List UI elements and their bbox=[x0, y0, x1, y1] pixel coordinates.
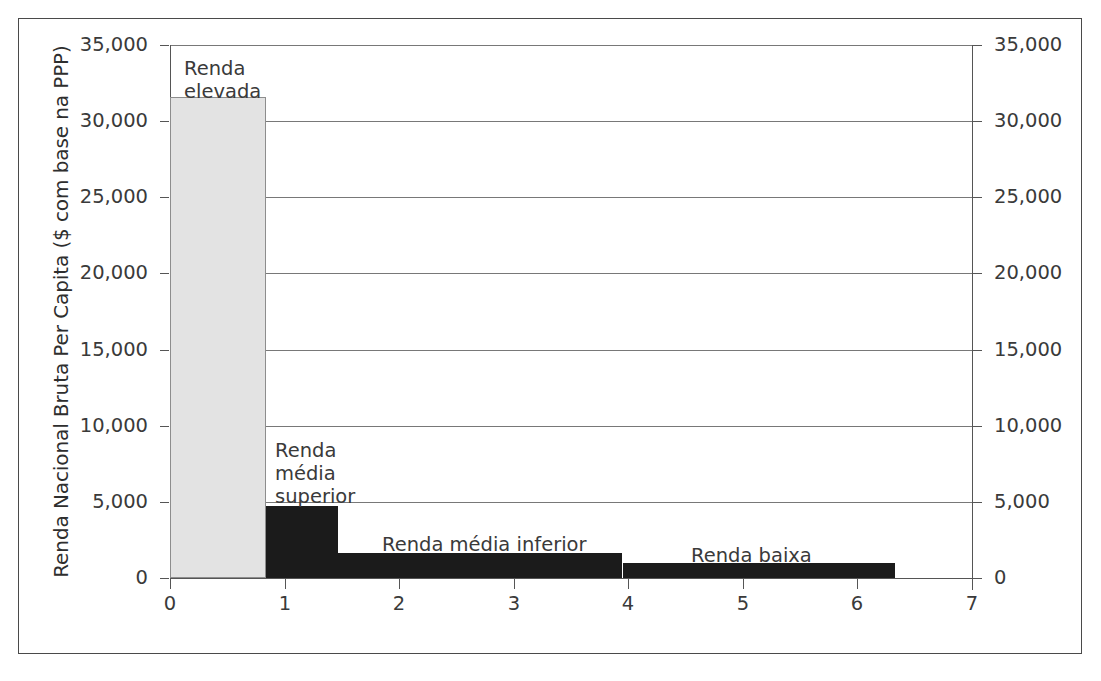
y-tick-label-right-35000: 35,000 bbox=[994, 35, 1062, 55]
bar-2 bbox=[338, 553, 622, 578]
x-axis-line bbox=[170, 578, 972, 579]
y-tick-label-right-0: 0 bbox=[994, 568, 1006, 588]
y-tick-right-20000 bbox=[973, 273, 982, 274]
y-tick-left-10000 bbox=[160, 426, 169, 427]
x-tick-label-3: 3 bbox=[494, 594, 534, 614]
x-tick-label-6: 6 bbox=[837, 594, 877, 614]
x-tick-2 bbox=[399, 578, 400, 589]
y-tick-label-right-25000: 25,000 bbox=[994, 187, 1062, 207]
y-tick-left-35000 bbox=[160, 45, 169, 46]
y-tick-left-25000 bbox=[160, 197, 169, 198]
x-tick-label-4: 4 bbox=[608, 594, 648, 614]
y-tick-label-left-10000: 10,000 bbox=[80, 416, 148, 436]
gridline-y-25000 bbox=[170, 197, 972, 198]
y-tick-right-15000 bbox=[973, 350, 982, 351]
bar-annotation-0: Renda elevada bbox=[184, 57, 261, 103]
gridline-y-15000 bbox=[170, 350, 972, 351]
y-tick-label-right-10000: 10,000 bbox=[994, 416, 1062, 436]
x-tick-5 bbox=[743, 578, 744, 589]
y-tick-label-left-30000: 30,000 bbox=[80, 111, 148, 131]
y-tick-right-0 bbox=[973, 578, 982, 579]
plot-area: 005,0005,00010,00010,00015,00015,00020,0… bbox=[170, 45, 972, 578]
gridline-y-20000 bbox=[170, 273, 972, 274]
bar-0 bbox=[170, 97, 266, 578]
y-tick-left-20000 bbox=[160, 273, 169, 274]
x-tick-label-0: 0 bbox=[150, 594, 190, 614]
x-tick-4 bbox=[628, 578, 629, 589]
y-tick-right-25000 bbox=[973, 197, 982, 198]
y-tick-label-left-15000: 15,000 bbox=[80, 340, 148, 360]
y-tick-label-right-30000: 30,000 bbox=[994, 111, 1062, 131]
x-tick-0 bbox=[170, 578, 171, 589]
y-tick-label-right-15000: 15,000 bbox=[994, 340, 1062, 360]
x-tick-label-2: 2 bbox=[379, 594, 419, 614]
x-tick-6 bbox=[857, 578, 858, 589]
bar-1 bbox=[266, 506, 338, 578]
y-tick-right-35000 bbox=[973, 45, 982, 46]
y-axis-right-line bbox=[972, 45, 973, 590]
x-tick-1 bbox=[285, 578, 286, 589]
y-tick-label-right-5000: 5,000 bbox=[994, 492, 1050, 512]
x-tick-label-1: 1 bbox=[265, 594, 305, 614]
y-tick-right-5000 bbox=[973, 502, 982, 503]
bar-annotation-2: Renda média inferior bbox=[382, 533, 587, 556]
x-tick-3 bbox=[514, 578, 515, 589]
gridline-y-30000 bbox=[170, 121, 972, 122]
gridline-y-35000 bbox=[170, 45, 972, 46]
y-tick-left-30000 bbox=[160, 121, 169, 122]
y-tick-label-right-20000: 20,000 bbox=[994, 263, 1062, 283]
y-tick-label-left-5000: 5,000 bbox=[92, 492, 148, 512]
x-tick-label-5: 5 bbox=[723, 594, 763, 614]
y-tick-label-left-0: 0 bbox=[136, 568, 148, 588]
y-tick-label-left-20000: 20,000 bbox=[80, 263, 148, 283]
y-tick-right-10000 bbox=[973, 426, 982, 427]
y-tick-label-left-25000: 25,000 bbox=[80, 187, 148, 207]
bar-annotation-3: Renda baixa bbox=[691, 544, 812, 567]
bar-annotation-1: Renda média superior bbox=[275, 439, 355, 508]
x-tick-label-7: 7 bbox=[952, 594, 992, 614]
gridline-y-10000 bbox=[170, 426, 972, 427]
y-axis-title: Renda Nacional Bruta Per Capita ($ com b… bbox=[49, 45, 77, 578]
y-tick-right-30000 bbox=[973, 121, 982, 122]
chart-figure: Renda Nacional Bruta Per Capita ($ com b… bbox=[0, 0, 1101, 681]
y-tick-label-left-35000: 35,000 bbox=[80, 35, 148, 55]
y-tick-left-15000 bbox=[160, 350, 169, 351]
y-tick-left-0 bbox=[160, 578, 169, 579]
y-tick-left-5000 bbox=[160, 502, 169, 503]
x-tick-7 bbox=[972, 578, 973, 589]
